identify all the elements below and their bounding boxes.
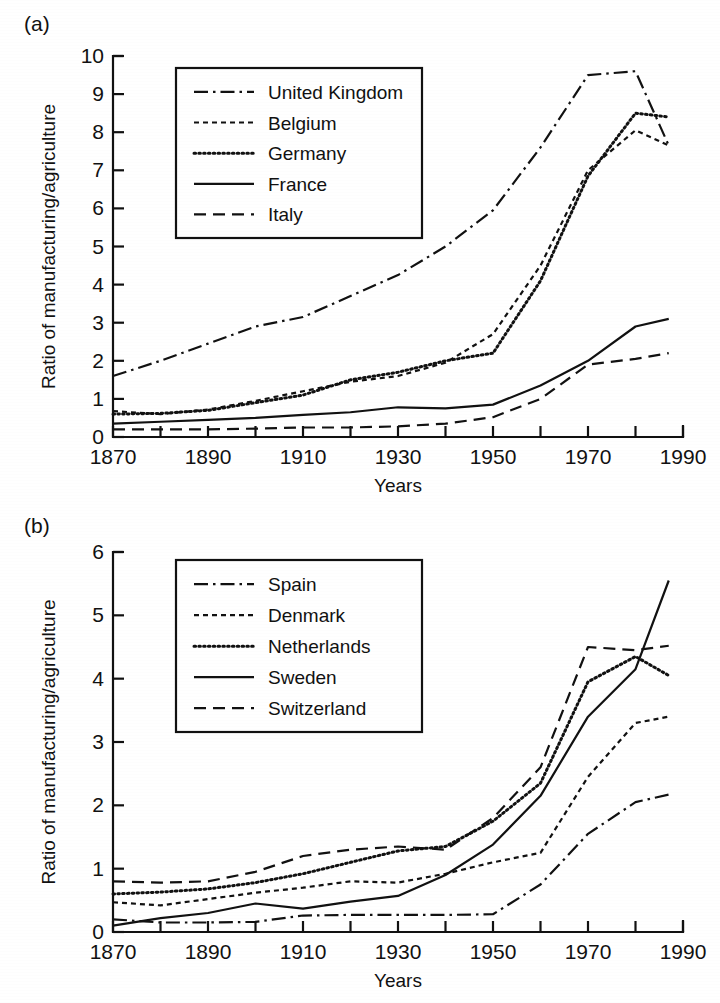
x-tick-label: 1890 — [185, 940, 232, 963]
legend: SpainDenmarkNetherlandsSwedenSwitzerland — [176, 560, 422, 732]
y-tick-label: 6 — [92, 540, 104, 563]
x-tick-label: 1990 — [660, 940, 707, 963]
y-tick-label: 5 — [92, 603, 104, 626]
x-tick-label: 1970 — [565, 445, 612, 468]
y-tick-label: 8 — [92, 120, 104, 143]
legend-label: Switzerland — [268, 698, 366, 719]
x-tick-label: 1970 — [565, 940, 612, 963]
legend-label: Denmark — [268, 605, 346, 626]
y-tick-label: 9 — [92, 82, 104, 105]
legend: United KingdomBelgiumGermanyFranceItaly — [176, 68, 422, 238]
x-tick-label: 1930 — [375, 445, 422, 468]
x-tick-label: 1910 — [280, 445, 327, 468]
legend-label: United Kingdom — [268, 82, 403, 103]
y-tick-label: 4 — [92, 273, 104, 296]
y-axis-title: Ratio of manufacturing/agriculture — [38, 104, 59, 389]
series-line — [113, 717, 669, 906]
y-tick-label: 2 — [92, 793, 104, 816]
y-tick-label: 2 — [92, 349, 104, 372]
y-tick-label: 3 — [92, 730, 104, 753]
legend-label: Belgium — [268, 113, 337, 134]
y-tick-label: 3 — [92, 311, 104, 334]
panel-a: (a) 012345678910187018901910193019501970… — [0, 0, 720, 500]
y-tick-label: 1 — [92, 857, 104, 880]
x-tick-label: 1930 — [375, 940, 422, 963]
legend-label: Spain — [268, 574, 317, 595]
chart-a: 0123456789101870189019101930195019701990… — [0, 0, 720, 500]
series-line — [113, 319, 669, 424]
panel-b: (b) 01234561870189019101930195019701990Y… — [0, 500, 720, 1003]
chart-b: 01234561870189019101930195019701990Years… — [0, 500, 720, 1003]
x-tick-label: 1990 — [660, 445, 707, 468]
y-tick-label: 6 — [92, 196, 104, 219]
x-tick-label: 1890 — [185, 445, 232, 468]
x-axis-title: Years — [374, 970, 422, 991]
legend-label: France — [268, 174, 327, 195]
legend-label: Sweden — [268, 667, 337, 688]
y-tick-label: 7 — [92, 158, 104, 181]
y-axis-title: Ratio of manufacturing/agriculture — [38, 599, 59, 884]
y-tick-label: 5 — [92, 235, 104, 258]
legend-label: Netherlands — [268, 636, 370, 657]
x-tick-label: 1870 — [90, 940, 137, 963]
y-tick-label: 4 — [92, 667, 104, 690]
x-tick-label: 1950 — [470, 445, 517, 468]
x-tick-label: 1910 — [280, 940, 327, 963]
x-axis-title: Years — [374, 475, 422, 496]
y-tick-label: 1 — [92, 387, 104, 410]
legend-label: Germany — [268, 143, 347, 164]
x-tick-label: 1950 — [470, 940, 517, 963]
legend-label: Italy — [268, 204, 303, 225]
series-line — [113, 353, 669, 429]
series-line — [113, 795, 669, 923]
y-tick-label: 10 — [81, 44, 104, 67]
x-tick-label: 1870 — [90, 445, 137, 468]
